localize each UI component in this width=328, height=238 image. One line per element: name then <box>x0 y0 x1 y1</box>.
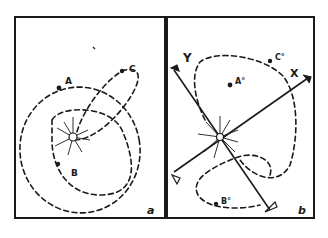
y-axis-arrow-icon <box>171 65 179 71</box>
panel-b-frame <box>167 17 314 218</box>
y-axis-neg-arrow-icon <box>265 202 277 212</box>
point-c-label: C <box>129 64 136 74</box>
point-c-prime <box>268 59 272 63</box>
point-a-prime-label: A° <box>235 77 245 86</box>
point-c <box>120 69 124 73</box>
sun-icon <box>198 116 238 158</box>
point-b-prime-label: B° <box>221 197 231 206</box>
panel-b-corner-label: b <box>298 204 306 217</box>
panel-a: A B C a <box>10 17 165 222</box>
x-axis-neg-arrow-icon <box>172 175 180 184</box>
orbit-lower-b <box>196 155 271 208</box>
orbit-diagram: A B C a Y <box>0 0 328 238</box>
point-b-prime <box>214 202 218 206</box>
panel-b: Y X A° B° C° b <box>167 17 314 218</box>
x-axis-arrow-icon <box>303 75 311 83</box>
y-axis-label: Y <box>182 51 192 65</box>
orbit-upper <box>195 56 296 178</box>
point-b-label: B <box>71 168 78 178</box>
sun-icon <box>55 117 90 155</box>
panel-a-corner-label: a <box>147 204 154 217</box>
point-a-prime <box>228 83 233 88</box>
orbit-c <box>75 69 138 140</box>
panel-a-frame <box>15 17 165 218</box>
point-b <box>56 162 60 166</box>
x-axis-label: X <box>290 67 299 80</box>
x-axis <box>174 78 308 172</box>
stray-mark <box>93 47 95 49</box>
point-a <box>57 86 62 91</box>
point-c-prime-label: C° <box>275 53 285 62</box>
point-a-label: A <box>65 76 72 86</box>
